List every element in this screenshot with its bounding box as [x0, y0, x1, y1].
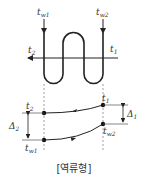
label-delta1: Δ1 [126, 109, 137, 120]
label-t1-top: t1 [110, 44, 117, 55]
label-tw1: tw1 [37, 7, 50, 18]
label-tw1-bottom: tw1 [25, 143, 38, 154]
caption: [역류형] [57, 163, 92, 174]
label-delta2: Δ2 [8, 121, 20, 132]
label-tw2-bottom: tw2 [103, 126, 116, 137]
label-tw2: tw2 [96, 7, 109, 18]
label-t1: t1 [102, 93, 109, 104]
label-t2-top: t2 [28, 45, 36, 56]
hot-fluid-curve [44, 105, 103, 113]
cold-fluid-curve [44, 124, 103, 140]
counterflow-diagram: tw1 tw2 t2 t1 Δ1 t1 tw2 Δ2 t2 tw1 [역류형] [0, 0, 149, 184]
label-t2: t2 [26, 101, 34, 112]
